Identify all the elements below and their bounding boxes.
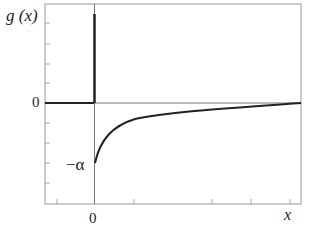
alpha-annotation: −α: [66, 155, 85, 175]
decay-curve: [95, 103, 301, 163]
x-ticks: [57, 199, 290, 204]
y-zero-tick-label: 0: [32, 94, 40, 111]
x-zero-tick-label: 0: [89, 210, 97, 227]
plot-area: [0, 0, 311, 229]
x-axis-label: x: [284, 206, 291, 224]
y-axis-label: g (x): [6, 6, 38, 26]
